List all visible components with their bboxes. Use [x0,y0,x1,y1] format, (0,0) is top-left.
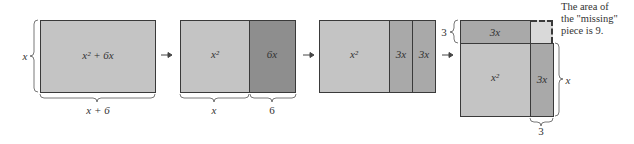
brace-p2-6 [250,94,296,102]
brace-p4-left [450,20,458,43]
panel-4-top-3x-label: 3x [490,26,500,38]
panel-4-right-x-label: x [566,74,571,86]
note-line-3: piece is 9. [561,25,618,37]
brace-p1-left [30,20,38,92]
panel-1-region-label: x² + 6x [82,49,114,61]
missing-piece-note: The area of the "missing" piece is 9. [561,1,618,37]
panel-2-6x-label: 6x [267,48,277,60]
panel-4-bottom-3-label: 3 [538,125,544,137]
brace-p1-bottom [40,94,155,102]
note-line-1: The area of [561,1,618,13]
panel-2-bottom-x-label: x [212,104,217,116]
panel-3-3x-label-a: 3x [396,48,406,60]
panel-4-right-3x-label: 3x [537,73,547,85]
panel-4-left-3-label: 3 [441,26,447,38]
panel-3-3x-label-b: 3x [419,48,429,60]
brace-p4-right [555,43,563,116]
brace-p2-x [180,94,249,102]
panel-4-x2-label: x² [491,71,499,83]
panel-1-side-label: x [23,50,28,62]
note-line-2: the "missing" [561,13,618,25]
panel-2-x2-label: x² [211,48,219,60]
panel-1-bottom-label: x + 6 [86,104,109,116]
panel-4-missing-piece [531,20,553,43]
panel-3-x2-label: x² [350,48,358,60]
panel-2-bottom-6-label: 6 [269,104,275,116]
